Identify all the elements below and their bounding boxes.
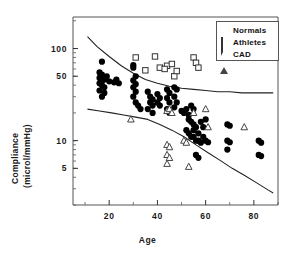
legend-entry-normals: Normals bbox=[220, 24, 266, 36]
data-point-normals bbox=[145, 106, 151, 112]
x-tick-label: 40 bbox=[145, 211, 169, 221]
data-point-cad bbox=[164, 160, 171, 166]
data-point-normals bbox=[130, 94, 136, 100]
data-point-athletes bbox=[133, 55, 138, 60]
data-point-normals bbox=[116, 80, 122, 86]
x-axis-ticks bbox=[85, 200, 278, 205]
data-point-normals bbox=[149, 110, 155, 116]
open-square-icon bbox=[220, 38, 229, 47]
data-point-athletes bbox=[162, 66, 167, 71]
data-point-normals bbox=[258, 140, 264, 146]
filled-circle-icon bbox=[220, 26, 229, 35]
data-point-normals bbox=[130, 65, 136, 71]
data-point-normals bbox=[101, 90, 107, 96]
data-point-normals bbox=[174, 86, 180, 92]
legend-label-normals: Normals bbox=[233, 26, 266, 35]
data-point-athletes bbox=[172, 74, 177, 79]
data-point-normals bbox=[171, 94, 177, 100]
x-tick-label: 60 bbox=[194, 211, 218, 221]
legend-label-athletes: Athletes bbox=[233, 38, 266, 47]
data-point-normals bbox=[195, 155, 201, 161]
y-tick-label: 50 bbox=[43, 71, 67, 81]
data-point-normals bbox=[227, 139, 233, 145]
data-point-athletes bbox=[143, 68, 148, 73]
data-point-athletes bbox=[152, 54, 157, 59]
x-tick-label: 20 bbox=[97, 211, 121, 221]
data-point-cad bbox=[202, 106, 209, 112]
y-tick-label: 10 bbox=[43, 136, 67, 146]
page-caption-fragment bbox=[4, 252, 254, 257]
data-point-cad bbox=[185, 163, 192, 169]
series-athletes-points bbox=[133, 54, 201, 79]
data-point-normals bbox=[203, 116, 209, 122]
legend-entry-athletes: Athletes bbox=[220, 36, 266, 48]
y-axis-ticks bbox=[73, 21, 78, 205]
y-tick-label: 5 bbox=[43, 163, 67, 173]
data-point-athletes bbox=[174, 68, 179, 73]
legend-entry-cad: CAD bbox=[220, 48, 251, 60]
open-triangle-icon bbox=[220, 50, 229, 59]
data-point-normals bbox=[137, 106, 143, 112]
data-point-normals bbox=[227, 123, 233, 129]
y-axis-label-line1: Compliance bbox=[10, 133, 20, 184]
data-point-normals bbox=[224, 146, 230, 152]
data-point-athletes bbox=[191, 55, 196, 60]
chart-legend: Normals Athletes CAD bbox=[216, 21, 279, 61]
data-point-normals bbox=[258, 153, 264, 159]
x-tick-label: 80 bbox=[242, 211, 266, 221]
data-point-cad bbox=[241, 124, 248, 130]
legend-label-cad: CAD bbox=[233, 50, 251, 59]
y-axis-label-line2: (microl/mmHg) bbox=[22, 124, 32, 188]
series-normals-points bbox=[96, 59, 264, 161]
y-axis-label: Compliance (microl/mmHg) bbox=[10, 56, 36, 176]
data-point-normals bbox=[205, 139, 211, 145]
data-point-normals bbox=[99, 59, 105, 65]
data-point-athletes bbox=[196, 65, 201, 70]
y-tick-label: 100 bbox=[43, 44, 67, 54]
data-point-athletes bbox=[169, 61, 174, 66]
lower-boundary-curve bbox=[87, 109, 273, 193]
data-point-normals bbox=[157, 103, 163, 109]
x-axis-label: Age bbox=[0, 235, 295, 245]
